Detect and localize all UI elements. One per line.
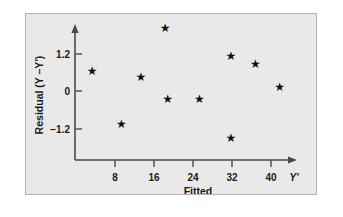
data-points-layer: ★★★★★★★★★★: [87, 21, 285, 144]
data-point-marker: ★: [274, 80, 285, 94]
data-point-marker: ★: [135, 70, 146, 84]
x-tick-label-1: 16: [148, 172, 160, 183]
x-axis: 8 16 24 32 40 Y' Fitted: [75, 156, 299, 194]
x-tick-label-2: 24: [187, 172, 199, 183]
residual-scatter-plot: 1.2 0 −1.2 Residual (Y –Y') 8 16 24 32 4…: [26, 14, 316, 194]
data-point-marker: ★: [226, 49, 237, 63]
figure-panel: 1.2 0 −1.2 Residual (Y –Y') 8 16 24 32 4…: [25, 13, 317, 195]
y-tick-label-1: 0: [64, 86, 70, 97]
x-axis-title: Fitted: [184, 185, 213, 194]
x-axis-arrow-icon: [288, 156, 297, 163]
data-point-marker: ★: [160, 21, 171, 35]
x-tick-label-4: 40: [265, 172, 277, 183]
data-point-marker: ★: [87, 64, 98, 78]
x-tick-label-0: 8: [112, 172, 118, 183]
data-point-marker: ★: [162, 92, 173, 106]
data-point-marker: ★: [226, 131, 237, 145]
x-tick-label-3: 32: [226, 172, 238, 183]
y-axis: 1.2 0 −1.2 Residual (Y –Y'): [33, 24, 82, 160]
data-point-marker: ★: [116, 117, 127, 131]
data-point-marker: ★: [194, 92, 205, 106]
y-axis-arrow-icon: [71, 24, 78, 33]
y-axis-title: Residual (Y –Y'): [33, 56, 45, 135]
y-tick-label-2: −1.2: [50, 124, 70, 135]
x-axis-end-label: Y': [289, 172, 299, 183]
y-tick-label-0: 1.2: [56, 49, 70, 60]
data-point-marker: ★: [250, 57, 261, 71]
